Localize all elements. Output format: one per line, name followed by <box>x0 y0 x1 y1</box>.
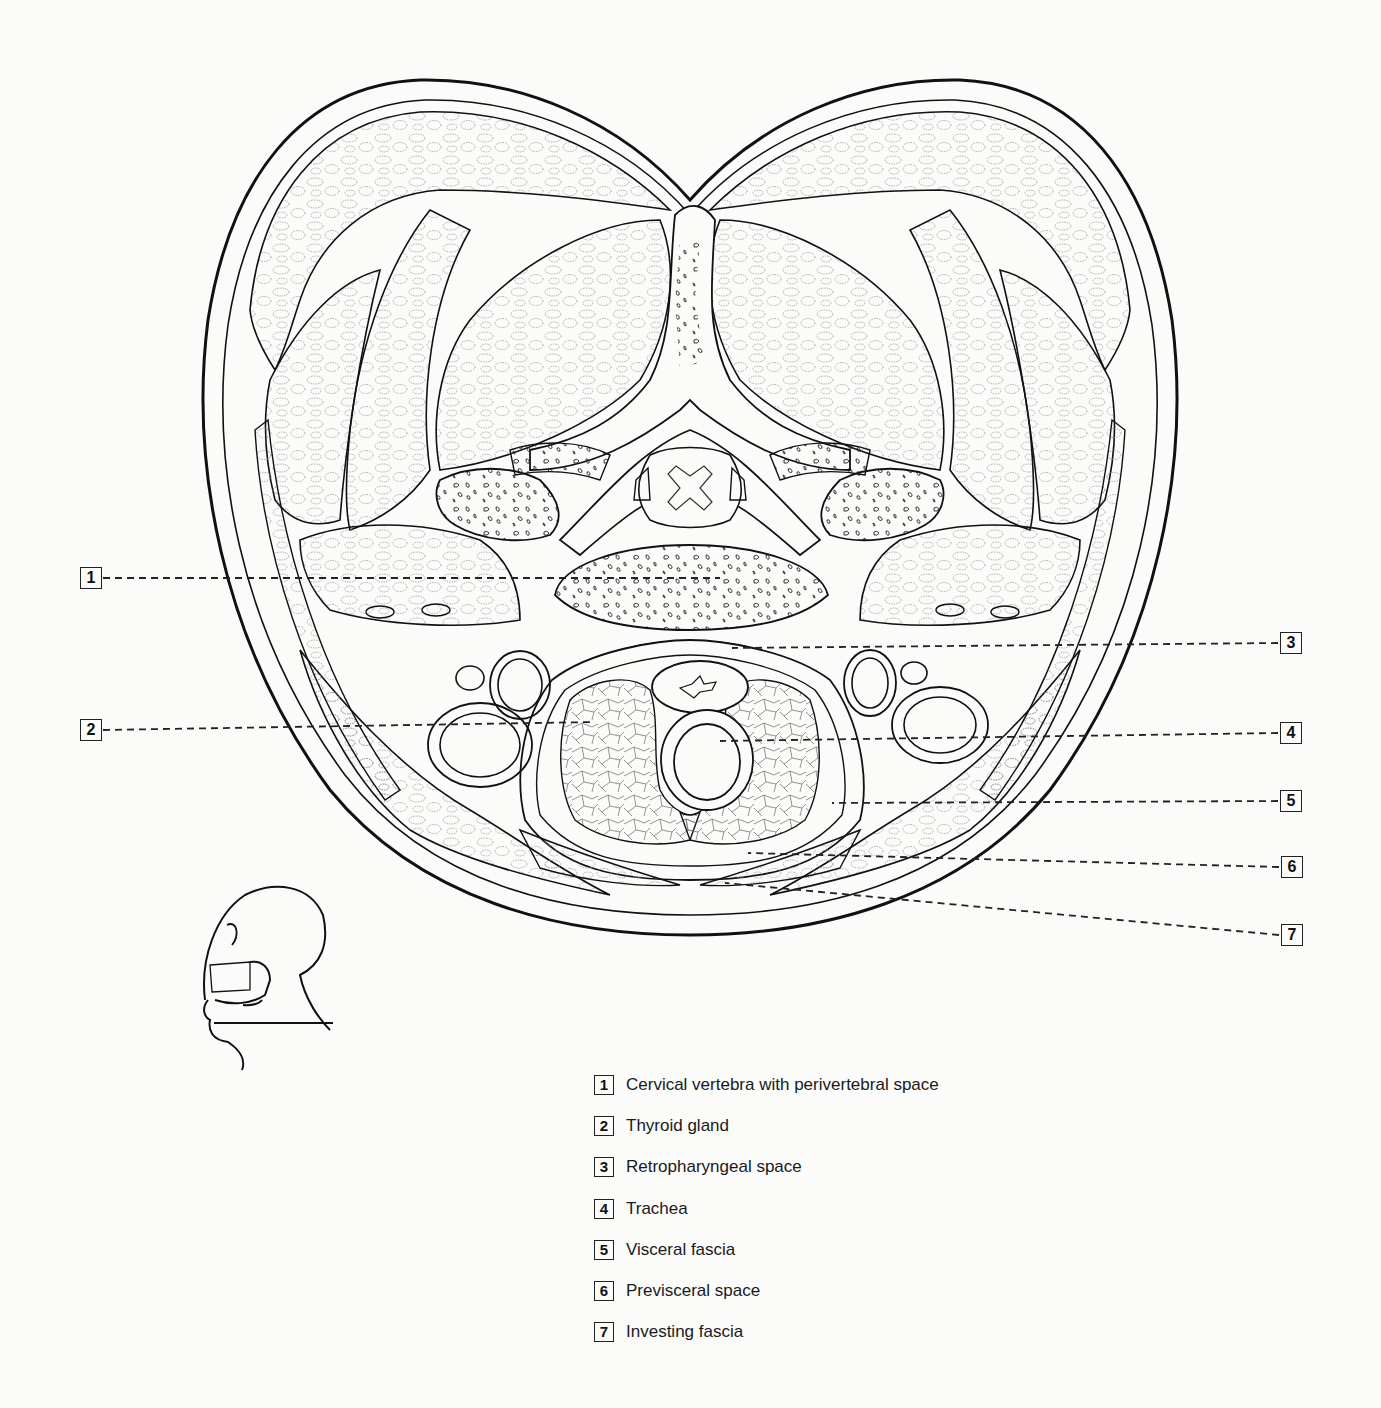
legend-item: 7 Investing fascia <box>594 1312 939 1353</box>
legend-label: Investing fascia <box>626 1322 743 1342</box>
legend-number: 4 <box>594 1199 614 1219</box>
legend-item: 4 Trachea <box>594 1188 939 1229</box>
legend-number: 2 <box>594 1116 614 1136</box>
legend-label: Retropharyngeal space <box>626 1157 802 1177</box>
callout-7: 7 <box>1281 924 1303 946</box>
legend-number: 7 <box>594 1322 614 1342</box>
legend-item: 6 Previsceral space <box>594 1270 939 1311</box>
legend-item: 2 Thyroid gland <box>594 1105 939 1146</box>
legend-label: Thyroid gland <box>626 1116 729 1136</box>
callout-3: 3 <box>1280 632 1302 654</box>
legend-number: 6 <box>594 1281 614 1301</box>
legend-label: Cervical vertebra with perivertebral spa… <box>626 1075 939 1095</box>
callout-5: 5 <box>1280 790 1302 812</box>
legend-number: 5 <box>594 1240 614 1260</box>
spinal-canal <box>639 448 742 528</box>
head-orientation-icon <box>204 887 333 1070</box>
legend-label: Trachea <box>626 1199 688 1219</box>
legend-label: Visceral fascia <box>626 1240 735 1260</box>
callout-1: 1 <box>80 567 102 589</box>
legend-number: 1 <box>594 1075 614 1095</box>
legend-item: 3 Retropharyngeal space <box>594 1147 939 1188</box>
legend: 1 Cervical vertebra with perivertebral s… <box>594 1064 939 1353</box>
callout-6: 6 <box>1281 856 1303 878</box>
legend-number: 3 <box>594 1157 614 1177</box>
legend-item: 5 Visceral fascia <box>594 1229 939 1270</box>
legend-label: Previsceral space <box>626 1281 760 1301</box>
esophagus <box>652 661 748 713</box>
callout-2: 2 <box>80 719 102 741</box>
legend-item: 1 Cervical vertebra with perivertebral s… <box>594 1064 939 1105</box>
callout-4: 4 <box>1280 722 1302 744</box>
